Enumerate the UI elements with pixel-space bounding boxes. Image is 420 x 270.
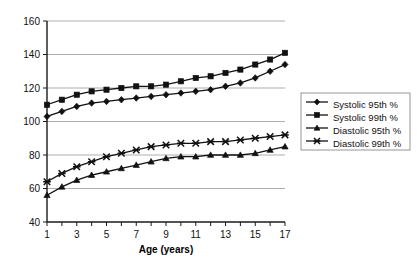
legend-item-label: Diastolic 99th % xyxy=(333,138,402,149)
x-axis-tick-label: 13 xyxy=(220,229,232,240)
y-axis-tick-label: 80 xyxy=(29,150,41,161)
data-point-marker-square xyxy=(163,82,168,87)
y-axis-tick-label: 40 xyxy=(29,217,41,228)
y-axis-tick-label: 160 xyxy=(23,16,40,27)
x-axis-tick-label: 1 xyxy=(44,229,50,240)
data-point-marker-square xyxy=(268,57,273,62)
data-point-marker-square xyxy=(193,75,198,80)
y-axis-tick-label: 120 xyxy=(23,83,40,94)
x-axis-tick-label: 15 xyxy=(250,229,262,240)
data-point-marker-square xyxy=(178,79,183,84)
data-point-marker-square xyxy=(74,92,79,97)
x-axis-tick-label: 5 xyxy=(104,229,110,240)
data-point-marker-square xyxy=(119,85,124,90)
data-point-marker-square xyxy=(238,67,243,72)
y-axis-tick-label: 100 xyxy=(23,116,40,127)
x-axis-tick-label: 11 xyxy=(191,229,202,240)
chart-legend: Systolic 95th %Systolic 99th %Diastolic … xyxy=(301,93,410,150)
y-axis-tick-label: 140 xyxy=(23,49,40,60)
data-point-marker-square xyxy=(59,97,64,102)
x-axis-tick-label: 7 xyxy=(133,229,139,240)
data-point-marker-square xyxy=(223,70,228,75)
data-point-marker-square xyxy=(104,87,109,92)
data-point-marker-square xyxy=(44,102,49,107)
chart-container: 406080100120140160 1357911131517 Age (ye… xyxy=(0,0,420,270)
legend-item-label: Systolic 95th % xyxy=(333,99,398,110)
data-point-marker-square xyxy=(89,89,94,94)
data-point-marker-square xyxy=(253,62,258,67)
x-axis-tick-label: 3 xyxy=(74,229,80,240)
blood-pressure-line-chart: 406080100120140160 1357911131517 Age (ye… xyxy=(0,0,420,270)
data-point-marker-square xyxy=(208,74,213,79)
x-axis-tick-label: 17 xyxy=(279,229,291,240)
x-axis-tick-label: 9 xyxy=(163,229,169,240)
data-point-marker-square xyxy=(282,50,287,55)
y-axis-tick-label: 60 xyxy=(29,183,41,194)
data-point-marker-square xyxy=(134,84,139,89)
legend-item-label: Diastolic 95th % xyxy=(333,125,402,136)
data-point-marker-square xyxy=(149,84,154,89)
legend-item-label: Systolic 99th % xyxy=(333,112,398,123)
x-axis-title: Age (years) xyxy=(139,244,193,255)
data-point-marker-square xyxy=(315,113,320,118)
